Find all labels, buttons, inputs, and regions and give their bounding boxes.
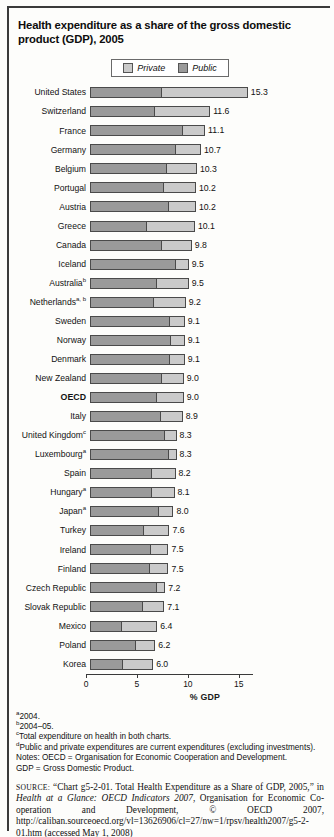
bar-value-label: 8.3 — [180, 431, 192, 440]
bar-value-label: 6.2 — [158, 641, 170, 650]
stacked-bar — [90, 297, 186, 308]
chart-row: Mexico6.4 — [16, 617, 324, 636]
bar-value-label: 15.3 — [251, 88, 268, 97]
chart-row: Japana8.0 — [16, 502, 324, 521]
bar-container: 8.3 — [90, 445, 324, 464]
bar-segment-private — [175, 145, 200, 154]
footnote-d: dPublic and private expenditures are cur… — [16, 743, 324, 753]
bar-value-label: 8.0 — [176, 507, 188, 516]
stacked-bar — [90, 392, 184, 403]
stacked-bar — [90, 354, 185, 365]
stacked-bar — [90, 601, 164, 612]
bar-container: 10.7 — [90, 140, 324, 159]
bar-segment-public — [91, 164, 166, 173]
bar-segment-public — [91, 583, 156, 592]
source-part-1: “Chart g5-2-01. Total Health Expenditure… — [50, 782, 324, 792]
bar-segment-private — [135, 641, 154, 650]
chart-row: Italy8.9 — [16, 407, 324, 426]
stacked-bar — [90, 506, 173, 517]
bar-segment-public — [91, 88, 161, 97]
bar-container: 7.5 — [90, 559, 324, 578]
bar-container: 6.4 — [90, 617, 324, 636]
chart-row: Finland7.5 — [16, 559, 324, 578]
bar-segment-private — [169, 355, 183, 364]
stacked-bar — [90, 125, 205, 136]
stacked-bar — [90, 659, 153, 670]
category-label: Switzerland — [16, 107, 90, 116]
bar-segment-private — [161, 374, 182, 383]
stacked-bar — [90, 201, 196, 212]
chart-row: United Kingdomc8.3 — [16, 426, 324, 445]
public-swatch-icon — [178, 63, 188, 73]
bar-segment-private — [154, 107, 209, 116]
stacked-bar — [90, 640, 155, 651]
chart-row: France11.1 — [16, 121, 324, 140]
bar-segment-private — [163, 183, 195, 192]
category-label: Turkey — [16, 526, 90, 535]
bar-container: 11.6 — [90, 102, 324, 121]
bar-segment-public — [91, 469, 151, 478]
bar-segment-public — [91, 660, 122, 669]
category-label: France — [16, 127, 90, 136]
axis-tick — [239, 674, 240, 678]
bar-value-label: 8.1 — [178, 488, 190, 497]
bar-value-label: 9.5 — [192, 260, 204, 269]
stacked-bar — [90, 487, 175, 498]
stacked-bar — [90, 316, 185, 327]
category-label: United Kingdomc — [16, 431, 90, 440]
footnotes: a2004. b2004–05. cTotal expenditure on h… — [16, 712, 324, 774]
category-label: Austria — [16, 203, 90, 212]
bar-container: 9.2 — [90, 293, 324, 312]
stacked-bar — [90, 144, 201, 155]
stacked-bar — [90, 335, 185, 346]
footnote-c: cTotal expenditure on health in both cha… — [16, 732, 324, 742]
chart-row: Greece10.1 — [16, 217, 324, 236]
bar-container: 7.2 — [90, 578, 324, 597]
bar-segment-public — [91, 602, 142, 611]
category-label: Ireland — [16, 546, 90, 555]
category-label: Italy — [16, 412, 90, 421]
category-label: Hungarya — [16, 488, 90, 497]
footnote-a-text: 2004. — [19, 712, 40, 721]
legend-label-private: Private — [137, 63, 165, 73]
bar-segment-private — [121, 622, 157, 631]
axis-tick-label: 5 — [135, 679, 140, 689]
stacked-bar — [90, 163, 197, 174]
category-label: Mexico — [16, 622, 90, 631]
bar-value-label: 9.0 — [187, 393, 199, 402]
bar-value-label: 8.2 — [179, 469, 191, 478]
bar-segment-private — [156, 393, 182, 402]
bar-container: 7.6 — [90, 521, 324, 540]
bar-container: 9.5 — [90, 274, 324, 293]
bar-segment-private — [150, 545, 167, 554]
bar-value-label: 8.3 — [180, 450, 192, 459]
stacked-bar — [90, 621, 157, 632]
stacked-bar — [90, 221, 195, 232]
stacked-bar — [90, 449, 177, 460]
chart-legend: Private Public — [111, 59, 229, 77]
chart-row: Austria10.2 — [16, 197, 324, 216]
category-footnote-marker: a — [83, 448, 86, 454]
bar-value-label: 9.0 — [187, 374, 199, 383]
chart-row: Norway9.1 — [16, 331, 324, 350]
legend-item-public: Public — [178, 63, 217, 73]
stacked-bar — [90, 87, 248, 98]
footnote-d-text: Public and private expenditures are curr… — [19, 743, 315, 752]
bar-container: 8.3 — [90, 426, 324, 445]
bar-segment-private — [151, 469, 174, 478]
bar-segment-private — [164, 431, 175, 440]
bar-segment-public — [91, 317, 169, 326]
bar-container: 9.0 — [90, 369, 324, 388]
bar-container: 15.3 — [90, 83, 324, 102]
axis-tick — [86, 674, 87, 678]
category-label: Sweden — [16, 317, 90, 326]
bar-container: 10.3 — [90, 159, 324, 178]
bar-value-label: 9.1 — [188, 317, 200, 326]
source-italic-title: Health at a Glance: OECD Indicators 2007 — [16, 793, 193, 803]
category-label: Luxembourga — [16, 450, 90, 459]
category-label: Netherlandsa, b — [16, 298, 90, 307]
bar-container: 10.2 — [90, 197, 324, 216]
bar-segment-private — [160, 412, 181, 421]
category-label: Germany — [16, 146, 90, 155]
category-label: Czech Republic — [16, 584, 90, 593]
